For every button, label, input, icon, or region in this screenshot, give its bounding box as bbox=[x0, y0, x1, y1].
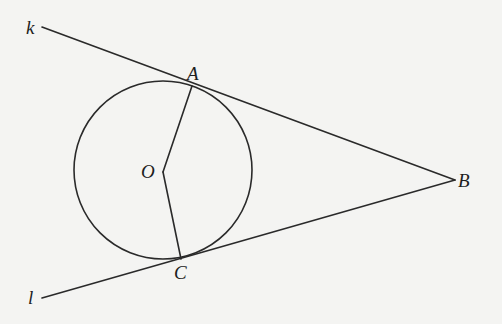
label-k: k bbox=[26, 17, 35, 38]
label-a: A bbox=[185, 63, 199, 84]
tangent-line-l bbox=[42, 180, 455, 298]
diagram-svg: k l A O C B bbox=[0, 0, 502, 324]
label-l: l bbox=[28, 287, 33, 308]
segment-oa bbox=[163, 86, 192, 172]
label-c: C bbox=[174, 262, 187, 283]
label-b: B bbox=[458, 170, 470, 191]
label-o: O bbox=[141, 161, 155, 182]
segment-oc bbox=[163, 172, 181, 259]
geometry-diagram: k l A O C B bbox=[0, 0, 502, 324]
